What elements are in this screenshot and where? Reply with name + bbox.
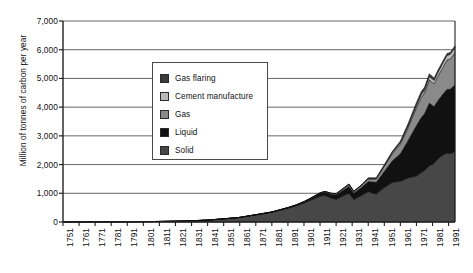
- x-tick-label: 1891: [291, 228, 300, 247]
- x-tick-label: 1821: [179, 228, 188, 247]
- x-tick-label: 1921: [339, 228, 348, 247]
- x-tick-label: 1871: [259, 228, 268, 247]
- x-tick-label: 1981: [436, 228, 445, 247]
- x-tick-label: 1931: [355, 228, 364, 247]
- legend-item: Gas flaring: [160, 69, 267, 87]
- legend-item: Gas: [160, 105, 267, 123]
- x-tick-label: 1801: [147, 228, 156, 247]
- x-tick-label: 1791: [130, 228, 139, 247]
- x-tick-label: 1761: [82, 228, 91, 247]
- legend-label: Gas flaring: [175, 74, 216, 83]
- legend-swatch-cement-manufacture: [160, 92, 169, 101]
- x-tick-label: 1781: [114, 228, 123, 247]
- x-tick-label: 1831: [195, 228, 204, 247]
- x-tick-label: 1811: [163, 228, 172, 246]
- legend-label: Solid: [175, 146, 194, 155]
- x-tick-label: 1951: [388, 228, 397, 247]
- legend-label: Gas: [175, 110, 190, 119]
- legend-swatch-liquid: [160, 128, 169, 137]
- x-tick-label: 1971: [420, 228, 429, 247]
- x-tick-label: 1911: [323, 228, 332, 246]
- x-tick-label: 1851: [227, 228, 236, 247]
- x-tick-label: 1991: [452, 228, 461, 247]
- legend-swatch-gas: [160, 110, 169, 119]
- x-axis-tick-labels: 1751176117711781179118011811182118311841…: [0, 228, 473, 273]
- x-tick-label: 1841: [211, 228, 220, 247]
- x-tick-label: 1961: [404, 228, 413, 247]
- legend-label: Liquid: [175, 128, 197, 137]
- x-tick-label: 1861: [243, 228, 252, 247]
- x-tick-label: 1771: [98, 228, 107, 247]
- legend-item: Cement manufacture: [160, 87, 267, 105]
- x-tick-label: 1751: [66, 228, 75, 247]
- legend-swatch-solid: [160, 146, 169, 155]
- legend-item: Solid: [160, 141, 267, 159]
- chart-legend: Gas flaringCement manufactureGasLiquidSo…: [152, 62, 268, 160]
- emissions-stacked-area-chart: Million of tonnes of carbon per year 01,…: [0, 0, 473, 273]
- legend-item: Liquid: [160, 123, 267, 141]
- x-tick-label: 1901: [307, 228, 316, 247]
- x-tick-label: 1941: [371, 228, 380, 247]
- legend-label: Cement manufacture: [175, 92, 253, 101]
- x-tick-label: 1881: [275, 228, 284, 247]
- legend-swatch-gas-flaring: [160, 74, 169, 83]
